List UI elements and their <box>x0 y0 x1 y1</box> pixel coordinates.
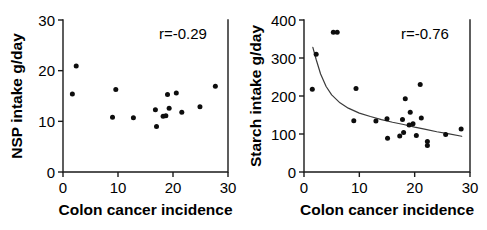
y-tick-label: 10 <box>38 113 55 130</box>
data-point <box>418 82 423 87</box>
data-points-group <box>310 30 464 148</box>
data-point <box>153 107 158 112</box>
data-point <box>113 87 118 92</box>
data-point <box>397 133 402 138</box>
data-point <box>401 130 406 135</box>
x-axis-title: Colon cancer incidence <box>300 201 474 218</box>
data-point <box>459 127 464 132</box>
data-point <box>425 143 430 148</box>
axes-group <box>63 20 228 172</box>
axis-frame <box>63 20 228 172</box>
x-tick-label: 20 <box>165 179 182 196</box>
y-axis-ticks: 0102030 <box>38 12 63 181</box>
data-point <box>335 30 340 35</box>
data-point <box>414 133 419 138</box>
data-point <box>179 110 184 115</box>
x-tick-label: 30 <box>220 179 237 196</box>
data-point <box>407 122 412 127</box>
data-point <box>213 84 218 89</box>
x-tick-label: 10 <box>351 179 368 196</box>
data-point <box>403 96 408 101</box>
y-tick-label: 400 <box>271 12 296 29</box>
y-tick-label: 200 <box>271 88 296 105</box>
data-points-group <box>70 64 218 129</box>
data-point <box>174 90 179 95</box>
x-tick-label: 0 <box>59 179 67 196</box>
y-axis-ticks: 0100200300400 <box>271 12 304 181</box>
y-axis-title: Starch intake g/day <box>247 25 264 168</box>
x-axis-title: Colon cancer incidence <box>59 201 233 218</box>
x-axis-ticks: 0102030 <box>300 172 479 196</box>
trend-curve-line <box>313 47 462 136</box>
figure-container: 01020300102030Colon cancer incidenceNSP … <box>0 0 487 230</box>
x-tick-label: 30 <box>462 179 479 196</box>
chart-panel-starch-intake: 01002003004000102030Colon cancer inciden… <box>244 0 487 230</box>
data-point <box>354 86 359 91</box>
data-point <box>351 118 356 123</box>
y-tick-label: 300 <box>271 50 296 67</box>
y-tick-label: 0 <box>288 164 296 181</box>
x-tick-label: 20 <box>406 179 423 196</box>
data-point <box>154 124 159 129</box>
data-point <box>163 113 168 118</box>
data-point <box>131 115 136 120</box>
axis-frame <box>304 20 470 172</box>
axes-group <box>304 20 470 172</box>
y-tick-label: 30 <box>38 12 55 29</box>
y-tick-label: 20 <box>38 62 55 79</box>
data-point <box>400 117 405 122</box>
data-point <box>74 64 79 69</box>
y-tick-label: 100 <box>271 126 296 143</box>
data-point <box>110 115 115 120</box>
x-tick-label: 0 <box>300 179 308 196</box>
data-point <box>165 92 170 97</box>
y-tick-label: 0 <box>47 164 55 181</box>
data-point <box>385 136 390 141</box>
scatter-plot-starch: 01002003004000102030Colon cancer inciden… <box>244 0 487 230</box>
y-axis-title: NSP intake g/day <box>8 33 25 159</box>
x-axis-ticks: 0102030 <box>59 172 237 196</box>
scatter-plot-nsp: 01020300102030Colon cancer incidenceNSP … <box>0 0 244 230</box>
data-point <box>443 132 448 137</box>
data-point <box>373 119 378 124</box>
data-point <box>310 87 315 92</box>
x-tick-label: 10 <box>110 179 127 196</box>
data-point <box>70 91 75 96</box>
data-point <box>167 106 172 111</box>
chart-panel-nsp-intake: 01020300102030Colon cancer incidenceNSP … <box>0 0 244 230</box>
data-point <box>385 116 390 121</box>
data-point <box>314 52 319 57</box>
data-point <box>408 110 413 115</box>
data-point <box>197 104 202 109</box>
data-point <box>419 116 424 121</box>
correlation-annotation: r=-0.29 <box>159 25 207 42</box>
correlation-annotation: r=-0.76 <box>401 25 449 42</box>
